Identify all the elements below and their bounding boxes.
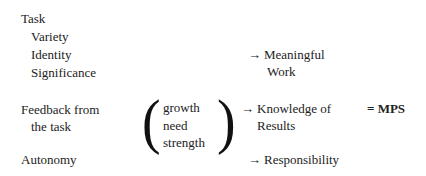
label-feedback-line2: the task bbox=[31, 119, 71, 134]
label-identity: Identity bbox=[31, 47, 71, 62]
label-feedback-line1: Feedback from bbox=[21, 102, 99, 117]
result-mps: = MPS bbox=[367, 101, 405, 116]
outcome-knowledge-line2: Results bbox=[257, 118, 295, 133]
label-variety: Variety bbox=[31, 29, 69, 44]
open-parenthesis: ( bbox=[142, 90, 161, 152]
label-task: Task bbox=[21, 11, 45, 26]
arrow-icon: → bbox=[241, 101, 254, 116]
moderator-line2: need bbox=[163, 118, 188, 133]
moderator-line1: growth bbox=[163, 100, 200, 115]
label-autonomy: Autonomy bbox=[21, 152, 77, 167]
moderator-line3: strength bbox=[163, 135, 205, 150]
outcome-responsibility: Responsibility bbox=[264, 152, 339, 167]
close-parenthesis: ) bbox=[217, 90, 236, 152]
outcome-meaningful-line1: Meaningful bbox=[264, 47, 325, 62]
arrow-icon: → bbox=[248, 47, 261, 62]
label-significance: Significance bbox=[31, 65, 96, 80]
outcome-knowledge-line1: Knowledge of bbox=[257, 101, 331, 116]
outcome-meaningful-line2: Work bbox=[267, 64, 296, 79]
arrow-icon: → bbox=[248, 152, 261, 167]
